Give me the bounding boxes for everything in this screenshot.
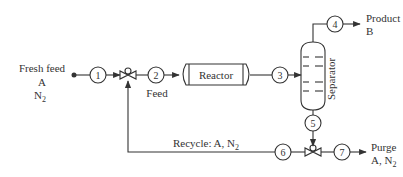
svg-text:7: 7 [340,147,345,158]
stream-7-marker: 7 [334,144,350,160]
svg-text:6: 6 [281,147,286,158]
svg-text:3: 3 [278,70,283,81]
svg-text:Purge: Purge [371,141,397,153]
svg-text:5: 5 [311,118,316,129]
reactor-vessel: Reactor [183,64,249,85]
svg-text:A: A [38,76,46,88]
purge-label: Purge A, N2 [371,141,397,169]
svg-text:4: 4 [333,19,338,30]
mixer-valve-icon [120,68,136,79]
stream-1-marker: 1 [90,67,106,83]
svg-text:N2: N2 [34,89,46,104]
svg-text:Fresh feed: Fresh feed [19,62,66,74]
svg-text:A, N2: A, N2 [371,154,396,169]
separator-column [301,42,325,110]
svg-text:Reactor: Reactor [199,69,234,81]
splitter-valve-icon [305,145,321,156]
svg-text:Product: Product [366,12,400,24]
recycle-label: Recycle: A, N2 [173,137,239,152]
stream-6-marker: 6 [275,144,291,160]
product-label: Product B [366,12,400,37]
svg-text:2: 2 [154,70,159,81]
separator-label: Separator [325,58,337,100]
stream-5-marker: 5 [305,115,321,131]
feed-label: Feed [146,87,168,99]
stream-4-marker: 4 [327,16,343,32]
process-flow-diagram: Fresh feed A N2 1 2 Feed Reactor 3 [0,0,403,177]
stream-2-marker: 2 [148,67,164,83]
fresh-feed-label: Fresh feed A N2 [19,62,66,104]
svg-text:1: 1 [96,70,101,81]
stream-3-marker: 3 [272,67,288,83]
svg-text:B: B [366,25,373,37]
